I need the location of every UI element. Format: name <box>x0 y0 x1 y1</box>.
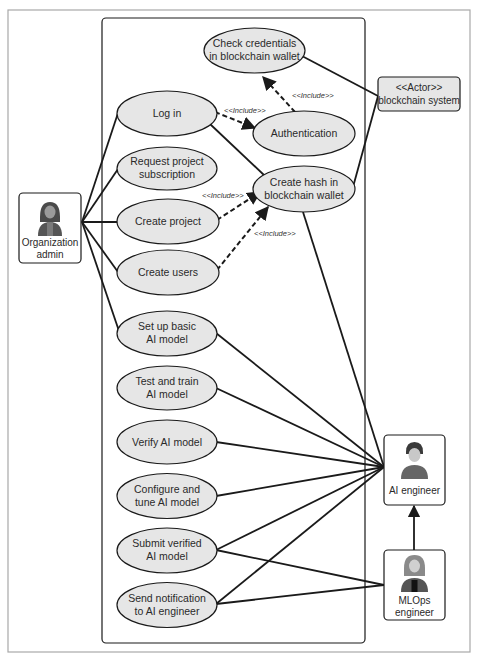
use-case-label: Request project <box>130 155 204 167</box>
actor-organization-admin[interactable]: Organization admin <box>19 193 81 263</box>
actor-mlops-engineer[interactable]: MLOps engineer <box>384 550 445 620</box>
use-case-diagram: <<Include>> <<Include>> <<Include>> <<In… <box>0 0 480 657</box>
use-case-label: Set up basic <box>138 320 196 332</box>
use-case-label: Submit verified <box>132 537 202 549</box>
use-case-configure-tune[interactable]: Configure and tune AI model <box>117 474 217 519</box>
actor-label: admin <box>36 249 63 260</box>
use-case-label: in blockchain wallet <box>209 50 300 62</box>
use-case-label: Send notification <box>128 592 206 604</box>
actor-label: Organization <box>22 237 79 248</box>
actor-label: MLOps <box>398 595 430 606</box>
use-case-label: tune AI model <box>135 496 199 508</box>
use-case-label: Check credentials <box>213 37 296 49</box>
use-case-log-in[interactable]: Log in <box>117 91 217 136</box>
actor-label: blockchain system <box>378 95 460 106</box>
use-case-label: AI model <box>146 550 187 562</box>
use-case-label: Verify AI model <box>132 436 202 448</box>
use-case-create-hash[interactable]: Create hash in blockchain wallet <box>253 166 355 212</box>
actor-label: AI engineer <box>389 485 441 496</box>
use-case-label: subscription <box>139 168 195 180</box>
use-case-verify-model[interactable]: Verify AI model <box>117 420 217 464</box>
use-case-create-users[interactable]: Create users <box>117 250 219 295</box>
actor-ai-engineer[interactable]: AI engineer <box>384 435 445 505</box>
actor-stereotype: <<Actor>> <box>396 82 443 93</box>
use-case-label: Log in <box>153 107 182 119</box>
include-label: <<Include>> <box>254 229 296 238</box>
use-case-label: Create hash in <box>270 176 338 188</box>
use-case-create-project[interactable]: Create project <box>117 199 219 244</box>
use-case-label: blockchain wallet <box>264 189 343 201</box>
use-case-send-notification[interactable]: Send notification to AI engineer <box>117 583 217 628</box>
use-case-label: to AI engineer <box>135 605 200 617</box>
include-label: <<Include>> <box>202 191 244 200</box>
use-case-label: AI model <box>146 388 187 400</box>
include-label: <<Include>> <box>292 91 334 100</box>
use-case-label: Authentication <box>271 127 338 139</box>
use-case-label: Create users <box>138 266 198 278</box>
use-case-authentication[interactable]: Authentication <box>253 111 355 156</box>
actor-label: engineer <box>395 607 435 618</box>
use-case-setup-model[interactable]: Set up basic AI model <box>117 311 217 356</box>
use-case-label: AI model <box>146 333 187 345</box>
use-case-submit-verified[interactable]: Submit verified AI model <box>117 528 217 573</box>
use-case-label: Configure and <box>134 483 200 495</box>
use-case-label: Create project <box>135 215 201 227</box>
use-case-request-subscription[interactable]: Request project subscription <box>117 147 217 190</box>
actor-blockchain-system[interactable]: <<Actor>> blockchain system <box>378 77 460 111</box>
use-case-label: Test and train <box>135 375 198 387</box>
include-label: <<Include>> <box>224 106 266 115</box>
use-case-check-credentials[interactable]: Check credentials in blockchain wallet <box>204 28 305 73</box>
use-case-test-train[interactable]: Test and train AI model <box>117 366 217 410</box>
